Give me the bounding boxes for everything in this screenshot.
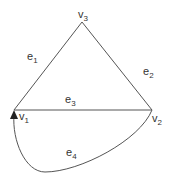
arrowhead-icon bbox=[10, 110, 18, 119]
edge-e4 bbox=[14, 110, 152, 172]
edge-label-e2: e2 bbox=[143, 65, 154, 80]
edge-label-e4: e4 bbox=[66, 146, 77, 161]
edge-label-e1: e1 bbox=[27, 50, 38, 65]
vertex-label-v1: v1 bbox=[19, 110, 30, 125]
vertex-label-v3: v3 bbox=[78, 8, 89, 23]
edge-label-e3: e3 bbox=[65, 93, 76, 108]
edge-e2 bbox=[82, 22, 152, 110]
graph-diagram: v3 v1 v2 e1 e2 e3 e4 bbox=[0, 0, 171, 177]
vertex-label-v2: v2 bbox=[152, 112, 163, 127]
edge-e1 bbox=[14, 22, 82, 110]
